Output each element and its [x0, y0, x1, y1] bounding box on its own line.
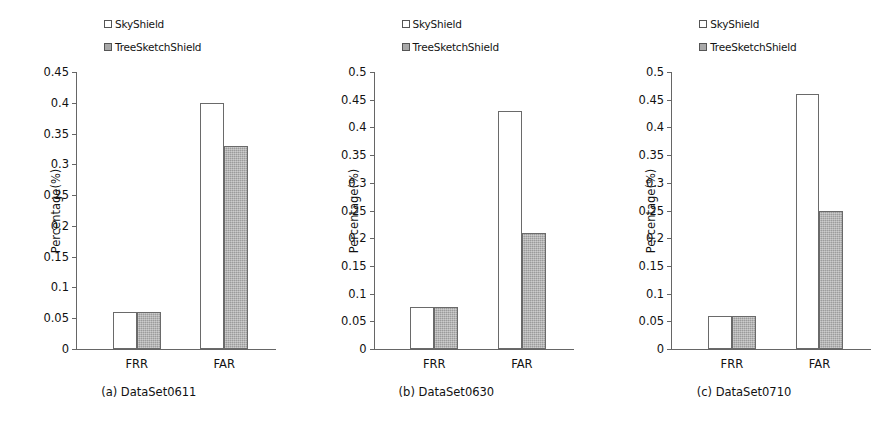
- plot-area: 0.50.450.40.350.30.250.20.150.10.050FRRF…: [374, 72, 574, 350]
- plot-area: 0.50.450.40.350.30.250.20.150.10.050FRRF…: [671, 72, 871, 350]
- y-axis-tick-label: 0.2: [646, 231, 664, 245]
- panel-caption: (c) DataSet0710: [595, 385, 893, 399]
- y-axis-tick-label: 0.15: [43, 250, 69, 264]
- y-axis-tick-label: 0.5: [646, 65, 664, 79]
- y-axis-tick: [72, 72, 77, 73]
- legend-item-skyshield: SkyShield: [104, 14, 264, 33]
- bar-treesketchshield-frr: [732, 316, 756, 349]
- y-axis-tick-label: 0.05: [639, 314, 665, 328]
- legend-swatch-gray-square-icon: [402, 43, 410, 51]
- y-axis-tick: [72, 318, 77, 319]
- bar-group-frr: FRR: [708, 72, 756, 349]
- bar-group-far: FAR: [796, 72, 844, 349]
- legend-swatch-open-square-icon: [104, 20, 112, 28]
- y-axis-tick-label: 0.4: [348, 120, 366, 134]
- y-axis-tick: [370, 183, 375, 184]
- legend-item-treesketchshield: TreeSketchShield: [104, 37, 264, 56]
- y-axis-tick: [667, 266, 672, 267]
- y-axis-tick: [667, 238, 672, 239]
- x-axis-category-label: FAR: [482, 357, 562, 371]
- y-axis-tick: [370, 294, 375, 295]
- bar-skyshield-far: [200, 103, 224, 349]
- y-axis-tick-label: 0: [359, 342, 366, 356]
- y-axis-tick-label: 0.25: [341, 204, 367, 218]
- y-axis-tick-label: 0.45: [639, 93, 665, 107]
- y-axis-tick: [667, 349, 672, 350]
- y-axis-tick: [370, 127, 375, 128]
- y-axis-tick-label: 0.3: [51, 157, 69, 171]
- y-axis-tick-label: 0: [62, 342, 69, 356]
- y-axis-tick: [370, 266, 375, 267]
- y-axis-tick-label: 0.1: [51, 280, 69, 294]
- bar-treesketchshield-frr: [137, 312, 161, 349]
- y-axis-tick-label: 0.05: [43, 311, 69, 325]
- y-axis-tick: [667, 321, 672, 322]
- y-axis-tick: [72, 349, 77, 350]
- x-axis-category-label: FRR: [97, 357, 177, 371]
- y-axis-tick: [72, 103, 77, 104]
- y-axis-tick-label: 0.2: [348, 231, 366, 245]
- y-axis-tick-label: 0.4: [646, 120, 664, 134]
- bar-skyshield-frr: [113, 312, 137, 349]
- y-axis-tick: [370, 321, 375, 322]
- y-axis-tick: [72, 287, 77, 288]
- legend-swatch-open-square-icon: [402, 20, 410, 28]
- bar-group-frr: FRR: [113, 72, 161, 349]
- legend-item-label: SkyShield: [115, 18, 164, 30]
- legend-item-treesketchshield: TreeSketchShield: [699, 37, 859, 56]
- chart-legend: SkyShieldTreeSketchShield: [104, 14, 264, 60]
- legend-item-skyshield: SkyShield: [402, 14, 562, 33]
- y-axis-tick: [667, 183, 672, 184]
- y-axis-tick: [667, 211, 672, 212]
- x-axis-category-label: FAR: [779, 357, 859, 371]
- plot-area: 0.450.40.350.30.250.20.150.10.050FRRFAR: [76, 72, 276, 350]
- y-axis-tick: [370, 100, 375, 101]
- y-axis-tick: [667, 155, 672, 156]
- chart-legend: SkyShieldTreeSketchShield: [699, 14, 859, 60]
- bar-skyshield-far: [796, 94, 820, 349]
- legend-item-label: SkyShield: [710, 18, 759, 30]
- y-axis-tick-label: 0.4: [51, 96, 69, 110]
- legend-item-treesketchshield: TreeSketchShield: [402, 37, 562, 56]
- bar-treesketchshield-far: [224, 146, 248, 349]
- legend-item-label: TreeSketchShield: [710, 41, 796, 53]
- y-axis-tick: [72, 226, 77, 227]
- y-axis-tick-label: 0.2: [51, 219, 69, 233]
- y-axis-tick: [72, 134, 77, 135]
- y-axis-tick-label: 0.45: [43, 65, 69, 79]
- y-axis-tick: [72, 195, 77, 196]
- y-axis-tick-label: 0.35: [43, 127, 69, 141]
- bar-treesketchshield-far: [819, 211, 843, 350]
- legend-item-label: TreeSketchShield: [413, 41, 499, 53]
- chart-panel-b: SkyShieldTreeSketchShieldPercentage(%)0.…: [298, 0, 596, 422]
- y-axis-tick-label: 0.35: [341, 148, 367, 162]
- y-axis-tick-label: 0: [657, 342, 664, 356]
- y-axis-tick: [370, 211, 375, 212]
- x-axis-category-label: FRR: [692, 357, 772, 371]
- y-axis-tick-label: 0.15: [639, 259, 665, 273]
- legend-item-label: SkyShield: [413, 18, 462, 30]
- y-axis-tick-label: 0.25: [43, 188, 69, 202]
- legend-item-label: TreeSketchShield: [115, 41, 201, 53]
- chart-panel-a: SkyShieldTreeSketchShieldPercentage(%)0.…: [0, 0, 298, 422]
- y-axis-tick-label: 0.45: [341, 93, 367, 107]
- legend-item-skyshield: SkyShield: [699, 14, 859, 33]
- y-axis-tick: [370, 349, 375, 350]
- y-axis-tick: [667, 100, 672, 101]
- legend-swatch-open-square-icon: [699, 20, 707, 28]
- y-axis-tick-label: 0.1: [646, 287, 664, 301]
- y-axis-tick: [370, 72, 375, 73]
- x-axis-category-label: FRR: [394, 357, 474, 371]
- bar-treesketchshield-frr: [434, 307, 458, 349]
- panel-caption: (b) DataSet0630: [298, 385, 596, 399]
- y-axis-tick-label: 0.3: [348, 176, 366, 190]
- y-axis-tick-label: 0.25: [639, 204, 665, 218]
- y-axis-tick-label: 0.3: [646, 176, 664, 190]
- y-axis-tick: [72, 257, 77, 258]
- bar-skyshield-frr: [708, 316, 732, 349]
- y-axis-tick: [370, 155, 375, 156]
- legend-swatch-gray-square-icon: [699, 43, 707, 51]
- x-axis-category-label: FAR: [184, 357, 264, 371]
- y-axis-tick-label: 0.35: [639, 148, 665, 162]
- y-axis-tick: [667, 294, 672, 295]
